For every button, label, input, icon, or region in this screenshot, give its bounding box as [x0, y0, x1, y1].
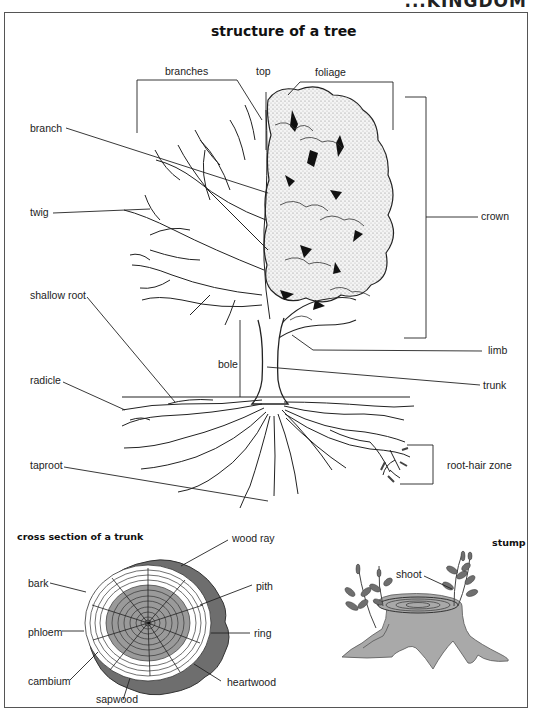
label-twig: twig [30, 207, 49, 218]
label-trunk: trunk [483, 380, 506, 391]
trunk-illustration [252, 318, 288, 404]
label-ring: ring [254, 628, 272, 639]
label-heartwood: heartwood [227, 677, 276, 688]
label-wood-ray: wood ray [232, 533, 275, 544]
label-taproot: taproot [30, 460, 63, 471]
leader-lines [53, 80, 482, 501]
label-shallow-root: shallow root [30, 290, 86, 301]
roots-illustration [122, 400, 414, 509]
label-shoot: shoot [396, 569, 422, 580]
branches-illustration [124, 105, 270, 325]
stump-title: stump [492, 537, 526, 548]
label-crown: crown [481, 211, 509, 222]
label-root-hair-zone: root-hair zone [447, 460, 512, 471]
label-foliage: foliage [315, 67, 346, 78]
stump-illustration [342, 551, 508, 669]
label-top: top [256, 66, 271, 77]
label-phloem: phloem [28, 627, 62, 638]
label-radicle: radicle [30, 375, 61, 386]
trunk-cross-section [85, 560, 229, 695]
label-branch: branch [30, 123, 62, 134]
foliage-illustration [264, 87, 394, 320]
label-sapwood: sapwood [96, 694, 138, 705]
diagram-artwork [0, 0, 539, 721]
label-bole: bole [218, 359, 238, 370]
label-cambium: cambium [28, 676, 71, 687]
label-branches: branches [165, 66, 208, 77]
main-title: structure of a tree [211, 23, 357, 39]
cross-section-title: cross section of a trunk [17, 531, 143, 542]
root-hairs [381, 448, 408, 482]
label-pith: pith [256, 581, 273, 592]
label-limb: limb [488, 345, 507, 356]
label-bark: bark [28, 578, 48, 589]
